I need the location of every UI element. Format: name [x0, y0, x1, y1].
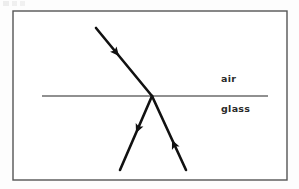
medium-label-air: air [221, 74, 236, 84]
refraction-figure: air glass [0, 0, 299, 189]
medium-label-glass: glass [221, 104, 250, 114]
ray-diagram-canvas [0, 0, 299, 189]
